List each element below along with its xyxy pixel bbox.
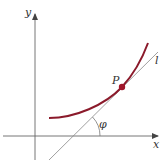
x-axis-label: x xyxy=(153,138,160,151)
tangent-line-label: l xyxy=(155,54,159,67)
tangent-diagram: y x P l φ xyxy=(0,0,166,163)
y-axis-label: y xyxy=(24,6,32,19)
point-p xyxy=(119,84,125,90)
diagram-canvas: y x P l φ xyxy=(0,0,166,163)
point-p-label: P xyxy=(111,74,120,87)
angle-phi-label: φ xyxy=(99,118,107,131)
tangent-line xyxy=(49,52,158,160)
curve xyxy=(49,43,148,118)
